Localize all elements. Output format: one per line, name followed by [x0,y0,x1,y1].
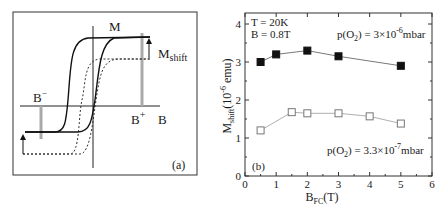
filled-square-marker [273,51,280,58]
b-plus-label: B+ [131,109,146,127]
series-line [261,112,401,130]
yl-exp: -6 [219,86,228,93]
panel-a-label: (a) [172,158,185,172]
filled-square-marker [304,47,311,54]
mshift-arrowhead-icon [146,38,152,44]
yl-unit: (10 [220,93,234,109]
open-square-marker [335,110,342,117]
xl-main: B [305,190,313,204]
b-plus-main: B [131,112,140,127]
data-series [257,47,404,134]
xl-unit: (T) [323,190,338,204]
xl-sub: FC [313,197,323,206]
lbl-exp: -6 [396,26,403,35]
y-tick-label: 3 [236,56,242,68]
open-square-marker [366,113,373,120]
open-square-marker [397,120,404,127]
figure: M Mshift B− B+ B (a) 012345601234 T = 20… [0,0,443,212]
x-axis-label: BFC(T) [305,190,338,206]
b-minus-label: B− [33,88,47,105]
lbl-exp: -7 [394,142,401,151]
mshift-sub: shift [170,52,188,63]
b-minus-sup: − [42,88,47,98]
condition-temperature: T = 20K [251,16,288,28]
series-line [261,51,401,66]
lbl-unit: mbar [401,144,424,156]
y-tick-label: 4 [236,18,242,30]
x-tick-label: 5 [398,178,404,190]
filled-square-marker [335,53,342,60]
y-axis-label: Mshift(10-6 emu) [219,58,236,133]
open-square-marker [257,127,264,134]
y-tick-label: 0 [236,170,242,182]
b-minus-main: B [33,90,42,105]
panel-b-label: (b) [252,160,265,173]
panel-a: M Mshift B− B+ B (a) [13,12,197,175]
lbl-post: ) = 3×10 [358,28,397,41]
b-plus-sup: + [140,109,146,120]
left-shift-arrowhead-icon [20,134,26,140]
b-axis-label: B [158,112,167,127]
condition-field: B = 0.8T [251,28,291,40]
x-tick-label: 3 [336,178,342,190]
series-low-label: p(O2) = 3.3×10-7mbar [327,142,424,159]
x-tick-label: 1 [273,178,279,190]
x-tick-label: 4 [367,178,373,190]
open-square-marker [304,110,311,117]
open-square-marker [288,109,295,116]
yl-sub: shift [227,108,236,123]
x-tick-label: 0 [242,178,248,190]
series-high-label: p(O2) = 3×10-6mbar [337,26,426,43]
x-tick-label: 6 [429,178,435,190]
lbl-post: ) = 3.3×10 [348,144,395,157]
x-tick-label: 2 [305,178,311,190]
lbl-pre: p(O [337,28,354,41]
lbl-unit: mbar [403,28,426,40]
yl-unit-end: emu) [220,58,234,86]
axis-tick-labels: 012345601234 [236,18,436,190]
mshift-label: Mshift [158,46,188,63]
lbl-pre: p(O [327,144,344,157]
y-tick-label: 2 [236,94,242,106]
filled-square-marker [257,59,264,66]
filled-square-marker [397,62,404,69]
panel-b: 012345601234 T = 20K B = 0.8T p(O2) = 3×… [219,13,435,206]
y-tick-label: 1 [236,132,242,144]
mshift-main: M [158,46,170,61]
m-axis-label: M [109,19,121,34]
yl-main: M [220,123,234,134]
